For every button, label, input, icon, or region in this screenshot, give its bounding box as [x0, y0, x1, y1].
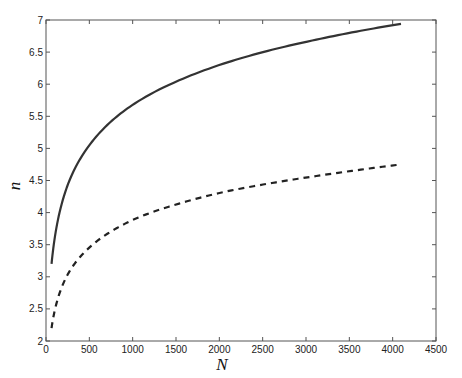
y-tick-label: 7: [37, 15, 43, 26]
x-tick-label: 4500: [425, 344, 448, 355]
y-tick-label: 6: [37, 79, 43, 90]
x-tick-label: 1000: [122, 344, 145, 355]
y-tick-label: 6.5: [29, 47, 43, 58]
x-axis-ticks: 050010001500200025003000350040004500: [43, 20, 447, 355]
x-tick-label: 1500: [165, 344, 188, 355]
y-tick-label: 5.5: [29, 111, 43, 122]
plot-area-border: [46, 20, 436, 341]
x-tick-label: 3000: [295, 344, 318, 355]
x-tick-label: 3500: [338, 344, 361, 355]
x-tick-label: 2000: [208, 344, 231, 355]
y-axis-ticks: 22.533.544.555.566.57: [29, 15, 436, 347]
y-axis-label: n: [5, 182, 24, 191]
y-tick-label: 4: [37, 207, 43, 218]
x-tick-label: 4000: [382, 344, 405, 355]
y-tick-label: 4.5: [29, 175, 43, 186]
y-tick-label: 2.5: [29, 303, 43, 314]
x-tick-label: 500: [81, 344, 98, 355]
x-tick-label: 0: [43, 344, 49, 355]
y-tick-label: 3.5: [29, 239, 43, 250]
y-tick-label: 2: [37, 336, 43, 347]
x-axis-label: N: [215, 355, 229, 374]
dashed-series-line: [52, 164, 401, 328]
y-tick-label: 5: [37, 143, 43, 154]
y-tick-label: 3: [37, 271, 43, 282]
plot-frame: [46, 20, 436, 341]
line-chart: 050010001500200025003000350040004500 22.…: [0, 0, 462, 378]
solid-series-line: [52, 24, 401, 264]
x-tick-label: 2500: [252, 344, 275, 355]
data-series: [52, 24, 401, 328]
